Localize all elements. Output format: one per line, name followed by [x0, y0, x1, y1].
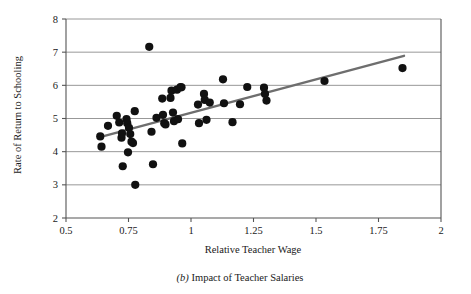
data-point-19 [149, 160, 157, 168]
data-point-47 [262, 96, 270, 104]
data-point-42 [228, 118, 236, 126]
x-tick-marks-group [66, 218, 441, 222]
data-point-34 [194, 100, 202, 108]
x-tick-label-1.5: 1.5 [309, 225, 322, 236]
x-tick-label-1.75: 1.75 [369, 225, 387, 236]
data-point-43 [236, 100, 244, 108]
data-point-24 [161, 120, 169, 128]
trend-line [99, 56, 404, 138]
y-tick-label-2: 2 [53, 213, 58, 224]
data-point-44 [243, 83, 251, 91]
data-point-7 [119, 162, 127, 170]
data-point-22 [159, 111, 167, 119]
data-point-18 [147, 128, 155, 136]
figure-container: 2345678 0.50.7511.251.51.752 Rate of Ret… [0, 0, 471, 294]
y-tick-label-7: 7 [53, 47, 58, 58]
data-point-15 [131, 107, 139, 115]
x-tick-label-0.5: 0.5 [59, 225, 72, 236]
data-point-41 [220, 99, 228, 107]
data-point-6 [118, 129, 126, 137]
y-tick-label-8: 8 [53, 14, 58, 25]
data-point-40 [219, 75, 227, 83]
x-axis-tick-labels: 0.50.7511.251.51.752 [59, 225, 443, 236]
data-point-39 [206, 98, 214, 106]
data-point-17 [145, 43, 153, 51]
y-tick-marks-group [62, 19, 66, 218]
data-point-38 [202, 116, 210, 124]
y-axis-tick-labels: 2345678 [53, 14, 59, 224]
figure-caption: (b) Impact of Teacher Salaries [177, 272, 304, 284]
data-point-1 [97, 143, 105, 151]
data-point-16 [131, 181, 139, 189]
data-point-0 [96, 132, 104, 140]
scatter-plot: 2345678 0.50.7511.251.51.752 Rate of Ret… [0, 0, 471, 294]
data-point-49 [398, 64, 406, 72]
y-tick-label-4: 4 [53, 146, 59, 157]
data-point-32 [177, 83, 185, 91]
data-point-35 [195, 119, 203, 127]
x-tick-label-2: 2 [438, 225, 443, 236]
data-point-21 [158, 95, 166, 103]
data-point-10 [124, 148, 132, 156]
caption-body: Impact of Teacher Salaries [189, 272, 304, 283]
data-point-33 [178, 139, 186, 147]
data-point-27 [169, 108, 177, 116]
data-point-4 [115, 118, 123, 126]
data-point-30 [174, 115, 182, 123]
trend-line-segment [99, 56, 404, 138]
x-tick-label-1: 1 [188, 225, 193, 236]
data-points-group [96, 43, 406, 189]
y-tick-label-6: 6 [53, 80, 58, 91]
data-point-48 [320, 77, 328, 85]
y-axis-title: Rate of Return to Schooling [12, 55, 23, 174]
data-point-25 [166, 94, 174, 102]
x-axis-title: Relative Teacher Wage [205, 244, 302, 255]
x-tick-label-1.25: 1.25 [244, 225, 262, 236]
x-tick-label-0.75: 0.75 [119, 225, 137, 236]
y-tick-label-5: 5 [53, 113, 58, 124]
y-tick-label-3: 3 [53, 179, 58, 190]
caption-label: (b) [177, 272, 190, 284]
data-point-14 [129, 139, 137, 147]
data-point-2 [104, 122, 112, 130]
data-point-12 [126, 130, 134, 138]
